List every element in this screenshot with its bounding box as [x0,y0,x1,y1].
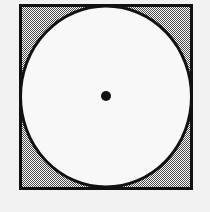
center-dot-icon [101,91,111,101]
diagram-canvas: Circle inscribed in a square with marked… [0,0,210,212]
inscribed-circle-figure [0,0,210,212]
